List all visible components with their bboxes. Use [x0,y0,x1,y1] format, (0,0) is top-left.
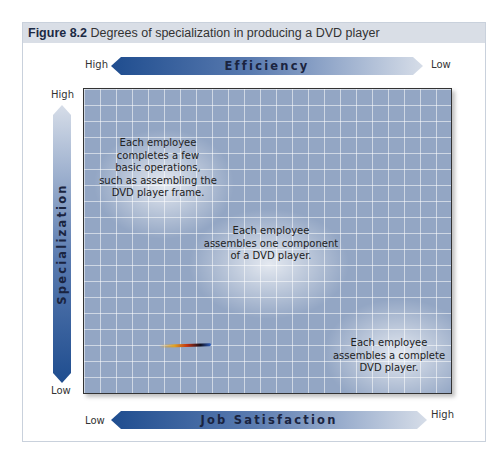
note-high-specialization: Each employee completes a few basic oper… [88,137,228,200]
efficiency-arrow: Efficiency [111,57,423,75]
specialization-low-label: Low [51,385,71,396]
specialization-axis-title: Specialization [55,183,69,305]
caption-text: Degrees of specialization in producing a… [87,26,380,40]
efficiency-low-label: Low [431,59,451,70]
job-satisfaction-low-label: Low [85,415,105,426]
caption-label: Figure 8.2 [28,26,87,40]
specialization-grid: Each employee completes a few basic oper… [83,88,452,394]
job-satisfaction-high-label: High [431,409,454,420]
specialization-high-label: High [51,89,74,100]
figure-caption: Figure 8.2 Degrees of specialization in … [23,23,485,43]
job-satisfaction-arrow: Job Satisfaction [111,411,427,429]
figure-panel: Figure 8.2 Degrees of specialization in … [22,22,486,442]
note-low-specialization: Each employee assembles a complete DVD p… [324,337,454,375]
note-medium-specialization: Each employee assembles one component of… [196,225,346,263]
efficiency-high-label: High [85,59,108,70]
efficiency-axis-title: Efficiency [111,57,423,75]
specialization-arrow: Specialization [53,105,71,383]
job-satisfaction-axis-title: Job Satisfaction [111,411,427,429]
